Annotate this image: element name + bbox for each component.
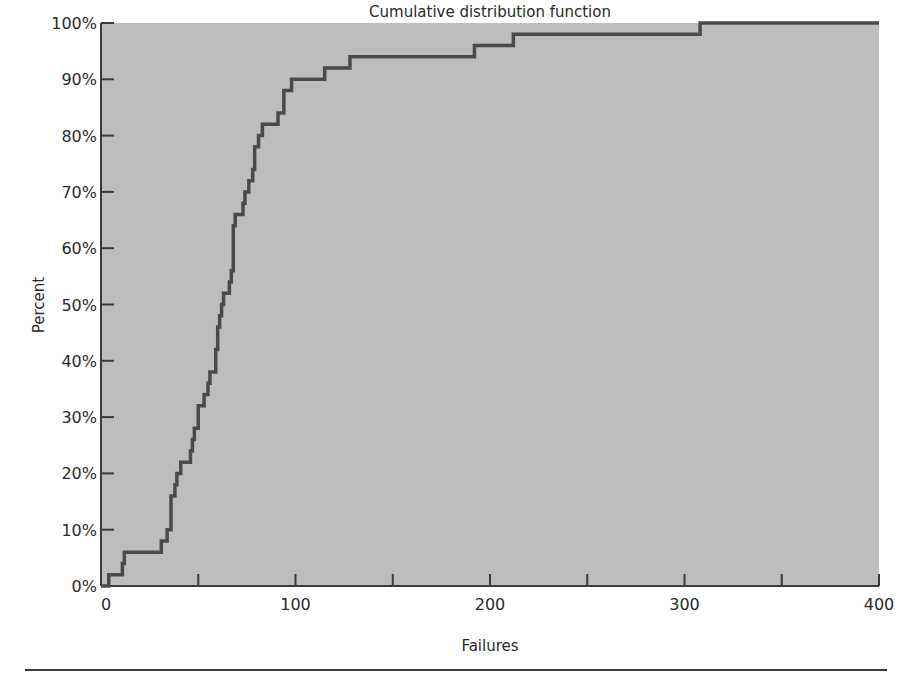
x-tick-label: 200 [475, 595, 506, 614]
y-tick-label: 60% [61, 239, 97, 258]
cdf-chart: 0%10%20%30%40%50%60%70%80%90%100% 010020… [0, 0, 921, 680]
x-tick-label: 400 [864, 595, 895, 614]
y-tick-label: 50% [61, 296, 97, 315]
y-tick-label: 80% [61, 127, 97, 146]
y-tick-label: 20% [61, 464, 97, 483]
y-tick-label: 0% [72, 577, 97, 596]
y-axis-label: Percent [30, 277, 48, 334]
plot-area [101, 23, 879, 586]
y-tick-label: 100% [51, 14, 97, 33]
y-tick-label: 90% [61, 70, 97, 89]
y-tick-label: 30% [61, 408, 97, 427]
x-axis-label: Failures [461, 637, 518, 655]
x-tick-label: 300 [669, 595, 700, 614]
y-tick-label: 40% [61, 352, 97, 371]
chart-title: Cumulative distribution function [369, 3, 611, 21]
y-tick-label: 70% [61, 183, 97, 202]
y-tick-label: 10% [61, 521, 97, 540]
x-tick-label: 100 [280, 595, 311, 614]
x-tick-label: 0 [101, 595, 111, 614]
